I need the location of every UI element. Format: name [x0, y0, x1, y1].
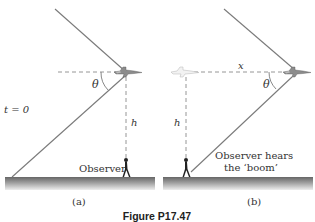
ground-b: [163, 177, 313, 190]
panel-a: θ t = 0 h Observer (a): [4, 9, 155, 207]
angle-label-b: θ: [263, 78, 270, 91]
observer-person-icon: [183, 158, 191, 177]
ghost-jet-icon: [171, 67, 199, 77]
angle-label-a: θ: [92, 78, 99, 91]
shock-front-upper-b: [224, 9, 295, 70]
angle-arc-b: [269, 72, 276, 89]
shock-front-upper-a: [55, 9, 126, 72]
panel-b: x θ h Observer hears the ‘boom’ (b): [163, 9, 313, 207]
jet-icon: [114, 67, 142, 77]
observer-label-a: Observer: [79, 163, 126, 174]
time-label: t = 0: [4, 104, 30, 115]
observer-label-b-line2: the ‘boom’: [224, 162, 278, 173]
distance-label-b: x: [238, 60, 244, 71]
figure-caption: Figure P17.47: [123, 210, 191, 222]
angle-arc-a: [101, 72, 108, 90]
shock-front-lower-a: [12, 75, 126, 177]
height-label-a: h: [131, 117, 137, 128]
ground-a: [5, 177, 155, 190]
sonic-boom-diagram: θ t = 0 h Observer (a): [0, 0, 315, 222]
height-label-b: h: [174, 117, 180, 128]
jet-icon: [283, 67, 311, 77]
panel-label-b: (b): [247, 196, 261, 207]
panel-label-a: (a): [72, 196, 86, 207]
observer-label-b-line1: Observer hears: [215, 150, 293, 161]
